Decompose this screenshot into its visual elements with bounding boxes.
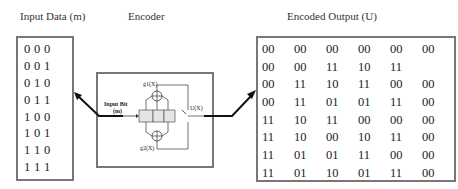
input-bit-label: Input Bit [104, 101, 128, 107]
input-bit-symbol: (m) [113, 108, 122, 115]
g1-label: g1(X) [143, 81, 157, 88]
g2-label: g2(X) [140, 145, 154, 152]
output-symbol-label: U(X) [190, 105, 203, 112]
shift-register [139, 110, 175, 122]
encoder-diagram: Input Bit (m) g1(X) g2(X) U(X) [0, 0, 458, 189]
